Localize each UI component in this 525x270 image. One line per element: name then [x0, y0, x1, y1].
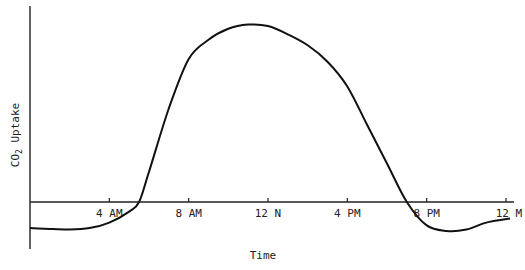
co2-uptake-chart: 4 AM8 AM12 N4 PM8 PM12 M Time CO2 Uptake	[0, 0, 525, 270]
x-tick-label: 8 AM	[175, 207, 202, 220]
x-tick-label: 4 PM	[334, 207, 361, 220]
co2-uptake-line	[30, 24, 510, 231]
x-axis-title: Time	[250, 249, 277, 262]
y-axis-title: CO2 Uptake	[9, 103, 24, 167]
x-tick-label: 12 N	[255, 207, 282, 220]
